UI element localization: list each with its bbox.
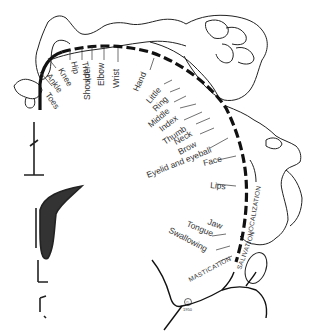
label-hip: Hip	[69, 60, 81, 75]
label-shoulder: Shoulder	[82, 66, 92, 100]
label-elbow: Elbow	[96, 62, 106, 86]
homunculus-diagram: Toes Ankle Knee Hip Trunk Shoulder Elbow…	[0, 0, 315, 331]
copyright-year: 1950	[183, 307, 193, 312]
svg-text:©: ©	[186, 300, 189, 305]
svg-text:Elbow: Elbow	[96, 62, 106, 86]
label-toes: Toes	[43, 90, 61, 110]
svg-text:1950: 1950	[183, 307, 193, 312]
label-vocalization: VOCALIZATION	[246, 185, 262, 236]
label-mastication: MASTICATION	[187, 255, 232, 283]
svg-text:Wrist: Wrist	[111, 68, 121, 88]
label-lips: Lips	[210, 180, 226, 191]
copyright-symbol: ©	[186, 300, 189, 305]
svg-text:MASTICATION: MASTICATION	[187, 255, 232, 283]
left-marks	[24, 122, 82, 318]
svg-text:Hand: Hand	[131, 70, 149, 93]
label-hand: Hand	[131, 70, 149, 93]
svg-text:Hip: Hip	[69, 60, 81, 75]
svg-text:Toes: Toes	[43, 90, 61, 110]
body-part-labels: Toes Ankle Knee Hip Trunk Shoulder Elbow…	[43, 60, 261, 283]
homunculus-drawing: Toes Ankle Knee Hip Trunk Shoulder Elbow…	[0, 0, 315, 331]
svg-text:VOCALIZATION: VOCALIZATION	[246, 185, 262, 236]
svg-text:Lips: Lips	[210, 180, 226, 191]
label-wrist: Wrist	[111, 68, 121, 88]
svg-text:Shoulder: Shoulder	[82, 66, 92, 100]
